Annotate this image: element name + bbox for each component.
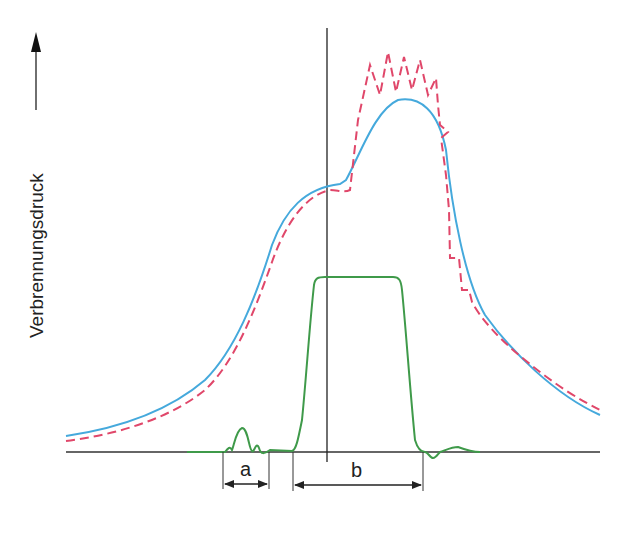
dimension-b: b — [293, 452, 423, 491]
dimension-a-label: a — [240, 458, 252, 480]
y-axis-label: Verbrennungsdruck — [26, 173, 47, 338]
y-axis-arrow-icon — [31, 32, 41, 110]
green-injection-curve — [187, 277, 480, 458]
red-dashed-pressure-curve — [66, 52, 600, 441]
combustion-pressure-diagram: Verbrennungsdruck a b — [0, 0, 623, 535]
blue-pressure-curve — [66, 99, 600, 436]
dimension-b-label: b — [351, 459, 362, 481]
dimension-a: a — [223, 452, 269, 489]
